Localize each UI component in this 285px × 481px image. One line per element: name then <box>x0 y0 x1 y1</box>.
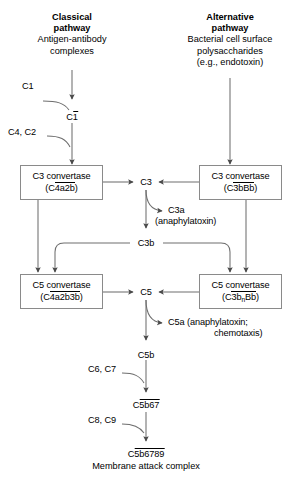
alternative-pathway-header: Alternative pathway Bacterial cell surfa… <box>165 12 285 68</box>
classical-desc-line2: complexes <box>7 46 137 57</box>
c5-convertase-alternative-title: C5 convertase <box>200 280 281 292</box>
classical-title-line2: pathway <box>7 23 137 34</box>
edge-c3-to-c3a <box>146 190 162 211</box>
box-c3-convertase-classical: C3 convertase (C4a2b) <box>20 165 103 200</box>
classical-desc-line1: Antigen-antibody <box>7 34 137 45</box>
alternative-desc-line1: Bacterial cell surface <box>165 34 285 45</box>
node-c5a-line1: C5a (anaphylatoxin; <box>168 317 248 328</box>
node-c3a-note: (anaphylatoxin) <box>155 216 216 227</box>
edge-c5-to-c5a <box>146 300 162 323</box>
node-c5b6789: C5b6789 <box>128 449 165 460</box>
node-c5: C5 <box>140 287 152 298</box>
alternative-title-line2: pathway <box>165 23 285 34</box>
node-c3b: C3b <box>138 238 155 249</box>
c3-convertase-classical-title: C3 convertase <box>21 171 102 183</box>
classical-pathway-header: Classical pathway Antigen-antibody compl… <box>7 12 137 57</box>
node-c1-input: C1 <box>22 81 34 92</box>
c5-convertase-classical-title: C5 convertase <box>21 280 102 292</box>
alternative-desc-line3: (e.g., endotoxin) <box>165 57 285 68</box>
edge-c3b-to-alternative-c5convertase <box>163 243 230 272</box>
c5-convertase-classical-formula: (C4a2b3b) <box>21 292 102 304</box>
c3-convertase-alternative-formula: (C3bBb) <box>200 183 281 195</box>
c1-overline: 1 <box>73 111 78 122</box>
edge-c3b-to-classical-c5convertase <box>55 243 130 272</box>
node-c4-c2-input: C4, C2 <box>8 127 36 138</box>
c5-convertase-alternative-formula: (C3bnBb) <box>200 292 281 306</box>
classical-title-line1: Classical <box>7 12 137 23</box>
c3-convertase-classical-formula: (C4a2b) <box>21 183 102 195</box>
edge-c1-feed <box>43 101 69 110</box>
box-c5-convertase-alternative: C5 convertase (C3bnBb) <box>199 274 282 309</box>
box-c3-convertase-alternative: C3 convertase (C3bBb) <box>199 165 282 200</box>
edge-c8c9-feed <box>122 424 144 433</box>
node-c3a: C3a <box>168 205 185 216</box>
c3-convertase-alternative-title: C3 convertase <box>200 171 281 183</box>
complement-pathway-diagram: Classical pathway Antigen-antibody compl… <box>0 0 285 481</box>
box-c5-convertase-classical: C5 convertase (C4a2b3b) <box>20 274 103 309</box>
node-c5b67: C5b67 <box>133 400 160 411</box>
edge-c6c7-feed <box>122 373 144 383</box>
node-c8-c9-input: C8, C9 <box>88 415 116 426</box>
node-c5b: C5b <box>138 350 155 361</box>
membrane-attack-complex-label: Membrane attack complex <box>92 461 200 473</box>
node-c5a-line2: chemotaxis) <box>214 328 262 339</box>
node-c3: C3 <box>140 177 152 188</box>
alternative-title-line1: Alternative <box>165 12 285 23</box>
node-c1-activated: C1 <box>66 112 78 123</box>
alternative-desc-line2: polysaccharides <box>165 46 285 57</box>
edge-c4c2-feed <box>47 136 70 147</box>
node-c6-c7-input: C6, C7 <box>88 364 116 375</box>
